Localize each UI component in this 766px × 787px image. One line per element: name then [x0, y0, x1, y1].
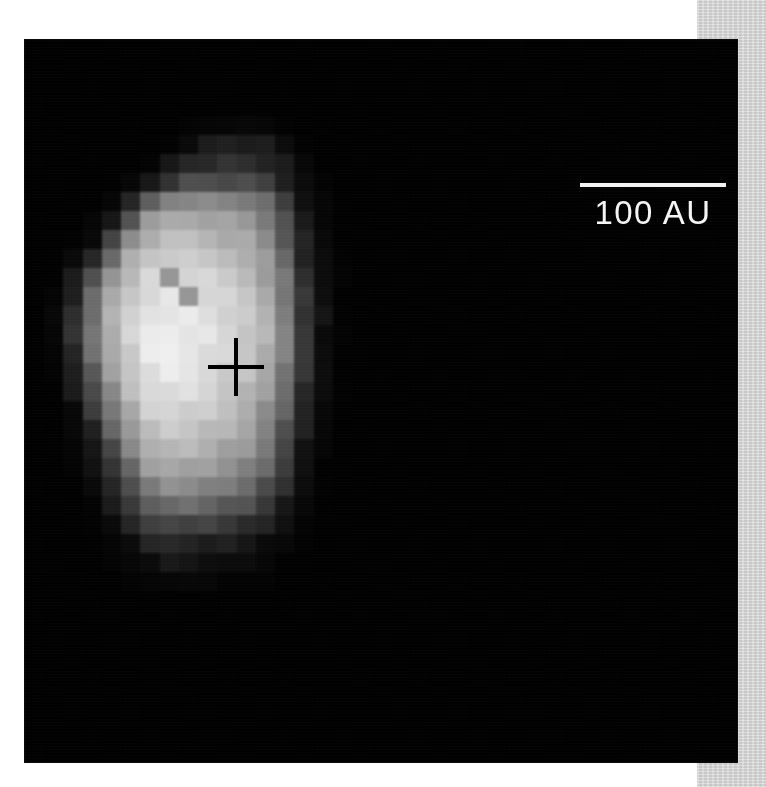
- astronomical-image-panel[interactable]: 100 AU: [25, 40, 737, 762]
- scale-bar: 100 AU: [578, 183, 728, 229]
- scale-bar-label: 100 AU: [578, 196, 728, 229]
- source-position-cross-icon: [208, 338, 264, 396]
- cross-vertical-arm: [234, 338, 238, 396]
- scale-bar-line: [580, 183, 726, 187]
- page-root: 100 AU: [0, 0, 766, 787]
- nebula-heatmap: [25, 40, 737, 762]
